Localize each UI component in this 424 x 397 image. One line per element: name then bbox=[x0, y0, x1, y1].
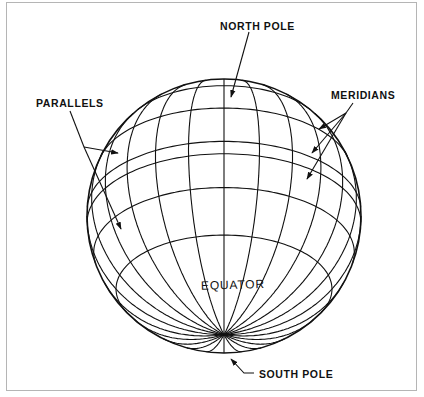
parallels-label: PARALLELS bbox=[36, 97, 104, 109]
meridian-line bbox=[224, 152, 356, 335]
equator-label: EQUATOR bbox=[201, 277, 265, 293]
globe-diagram: NORTH POLE PARALLELS MERIDIANS EQUATOR S… bbox=[0, 0, 424, 397]
meridians-leader bbox=[307, 103, 353, 179]
meridian-line bbox=[92, 152, 224, 335]
north-pole-label: NORTH POLE bbox=[220, 20, 295, 32]
meridians-label: MERIDIANS bbox=[331, 89, 395, 101]
south-pole-label: SOUTH POLE bbox=[259, 368, 333, 380]
south-pole-leader bbox=[231, 359, 254, 373]
globe-grid bbox=[87, 79, 361, 353]
